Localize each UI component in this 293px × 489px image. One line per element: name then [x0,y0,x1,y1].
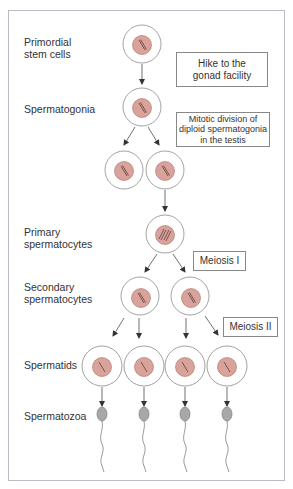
spermatogenesis-diagram [0,0,293,489]
arrow [173,254,185,272]
cell-spermatid-1 [82,346,122,386]
cell-spermatogonium-daughter-1 [105,151,143,189]
arrow [205,316,218,335]
cell-primordial [123,25,161,63]
cell-primary-spermatocyte [146,215,184,253]
arrow [145,254,157,272]
cell-secondary-spermatocyte-2 [171,277,209,315]
cell-spermatid-4 [207,346,247,386]
spermatozoon-4 [222,407,232,472]
arrow [124,127,135,145]
spermatozoon-3 [180,407,190,472]
spermatozoon-2 [139,407,149,472]
cell-spermatid-2 [124,346,164,386]
cell-secondary-spermatocyte-1 [121,277,159,315]
cell-spermatogonium [123,88,161,126]
arrow [113,318,124,336]
cell-spermatogonium-daughter-2 [146,151,184,189]
arrow [148,127,159,145]
cell-spermatid-3 [165,346,205,386]
spermatozoon-1 [97,407,107,472]
